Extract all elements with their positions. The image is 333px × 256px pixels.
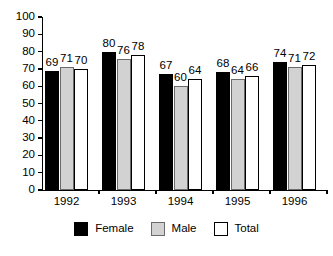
bar-value-label: 70 bbox=[75, 55, 88, 67]
x-axis-label-1993: 1993 bbox=[111, 196, 137, 208]
bar-1992-female bbox=[45, 71, 59, 190]
bar-value-label: 67 bbox=[160, 60, 173, 72]
legend-label: Male bbox=[172, 223, 197, 235]
y-axis-tick-label: 70 bbox=[0, 63, 35, 75]
bar-1994-total bbox=[188, 79, 202, 190]
bar-value-label: 69 bbox=[46, 57, 59, 69]
bar-1992-total bbox=[74, 69, 88, 190]
bar-1996-female bbox=[273, 62, 287, 190]
bar-1994-male bbox=[174, 86, 188, 190]
legend-swatch-male bbox=[151, 222, 165, 236]
x-axis-label-1992: 1992 bbox=[54, 196, 80, 208]
chart-legend: FemaleMaleTotal bbox=[0, 222, 333, 236]
bar-1992-male bbox=[60, 67, 74, 190]
legend-item-male[interactable]: Male bbox=[151, 222, 197, 236]
x-axis-tick bbox=[269, 190, 270, 194]
bar-1993-male bbox=[117, 59, 131, 190]
legend-swatch-female bbox=[74, 222, 88, 236]
bar-1993-total bbox=[131, 55, 145, 190]
x-axis-label-1995: 1995 bbox=[225, 196, 251, 208]
bar-value-label: 64 bbox=[189, 65, 202, 77]
legend-label: Total bbox=[235, 223, 259, 235]
y-axis-tick-label: 50 bbox=[0, 98, 35, 110]
bar-1995-female bbox=[216, 72, 230, 190]
x-axis-tick bbox=[212, 190, 213, 194]
legend-swatch-total bbox=[214, 222, 228, 236]
y-axis-tick-label: 80 bbox=[0, 46, 35, 58]
y-axis-tick-label: 40 bbox=[0, 115, 35, 127]
bar-1993-female bbox=[102, 52, 116, 190]
y-axis-tick-label: 30 bbox=[0, 132, 35, 144]
bar-1995-total bbox=[245, 76, 259, 190]
bar-value-label: 72 bbox=[303, 51, 316, 63]
y-axis-tick-label: 10 bbox=[0, 167, 35, 179]
plot-area: 697170807678676064686466747172 bbox=[42, 17, 327, 190]
bar-1996-male bbox=[288, 67, 302, 190]
bar-value-label: 76 bbox=[117, 45, 130, 57]
y-axis-tick-label: 20 bbox=[0, 150, 35, 162]
legend-item-female[interactable]: Female bbox=[74, 222, 133, 236]
y-axis-tick-label: 90 bbox=[0, 29, 35, 41]
bar-1995-male bbox=[231, 79, 245, 190]
legend-label: Female bbox=[95, 223, 133, 235]
x-axis-tick bbox=[155, 190, 156, 194]
bar-chart: 0102030405060708090100 19921993199419951… bbox=[0, 0, 333, 256]
bar-value-label: 78 bbox=[132, 41, 145, 53]
bar-value-label: 74 bbox=[274, 48, 287, 60]
bar-value-label: 60 bbox=[174, 72, 187, 84]
y-axis-tick-label: 60 bbox=[0, 80, 35, 92]
bar-value-label: 66 bbox=[246, 62, 259, 74]
legend-item-total[interactable]: Total bbox=[214, 222, 259, 236]
x-axis-tick bbox=[98, 190, 99, 194]
y-axis-tick-label: 100 bbox=[0, 11, 35, 23]
bar-value-label: 71 bbox=[60, 53, 73, 65]
x-axis-tick bbox=[326, 190, 327, 194]
y-axis-tick-label: 0 bbox=[0, 184, 35, 196]
bar-value-label: 71 bbox=[288, 53, 301, 65]
bar-value-label: 68 bbox=[217, 58, 230, 70]
x-axis-label-1994: 1994 bbox=[168, 196, 194, 208]
bar-value-label: 80 bbox=[103, 38, 116, 50]
bar-1994-female bbox=[159, 74, 173, 190]
bar-value-label: 64 bbox=[231, 65, 244, 77]
bar-1996-total bbox=[302, 65, 316, 190]
x-axis-label-1996: 1996 bbox=[282, 196, 308, 208]
